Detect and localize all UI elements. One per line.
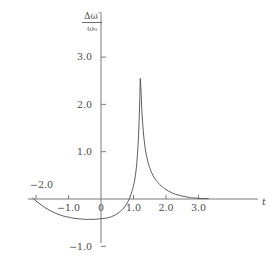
y-axis-label-denominator: ω₀	[87, 24, 97, 33]
x-tick-label: −1.0	[57, 202, 80, 213]
chart-svg: −2.0−1.001.02.03.0 −1.01.02.03.0 Δω′ ω₀ …	[0, 0, 275, 257]
x-tick-label: −2.0	[30, 179, 53, 190]
x-axis-label: t	[262, 196, 266, 207]
x-axis-ticks	[36, 195, 199, 199]
y-axis-tick-labels: −1.01.02.03.0	[69, 51, 92, 251]
chart-figure: −2.0−1.001.02.03.0 −1.01.02.03.0 Δω′ ω₀ …	[0, 0, 275, 257]
y-axis-label-numerator: Δω′	[84, 11, 100, 21]
x-tick-label: 2.0	[158, 202, 173, 213]
y-tick-label: 3.0	[77, 51, 92, 62]
x-tick-label: 3.0	[191, 202, 206, 213]
data-curve	[33, 78, 209, 219]
y-axis-label: Δω′ ω₀	[82, 11, 102, 33]
y-tick-label: −1.0	[69, 241, 92, 252]
x-tick-label: 0	[98, 202, 104, 213]
y-tick-label: 1.0	[77, 146, 92, 157]
y-tick-label: 2.0	[77, 99, 92, 110]
x-tick-label: 1.0	[126, 202, 141, 213]
x-axis-tick-labels: −2.0−1.001.02.03.0	[30, 179, 206, 213]
